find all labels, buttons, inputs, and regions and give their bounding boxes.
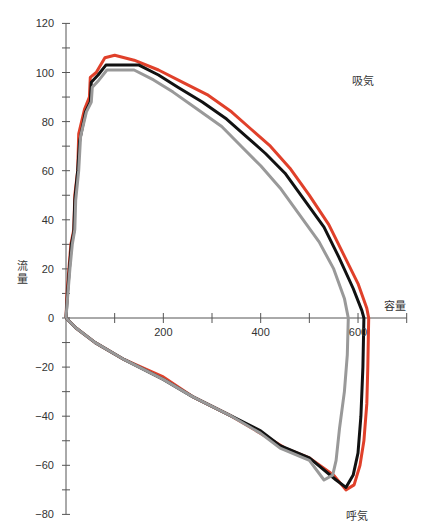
inhale-annotation: 吸気 bbox=[352, 74, 374, 88]
y-tick-label: 20 bbox=[42, 263, 54, 275]
y-tick-label: 120 bbox=[36, 17, 54, 29]
series-black-line bbox=[66, 65, 364, 487]
y-tick-label: 100 bbox=[36, 67, 54, 79]
y-tick-label: 40 bbox=[42, 214, 54, 226]
series-layer bbox=[66, 55, 369, 490]
y-tick-label: 80 bbox=[42, 116, 54, 128]
series-gray-line bbox=[66, 70, 348, 480]
y-tick-label: −20 bbox=[35, 361, 54, 373]
y-axis-title: 流 bbox=[17, 259, 28, 273]
x-axis-title: 容量 bbox=[384, 299, 406, 313]
labels-layer: 120100806040200−20−40−60−80200400600容量流量… bbox=[17, 17, 407, 523]
axes bbox=[62, 23, 407, 514]
flow-volume-chart: 120100806040200−20−40−60−80200400600容量流量… bbox=[0, 0, 421, 532]
x-tick-label: 600 bbox=[349, 326, 367, 338]
y-tick-label: −60 bbox=[35, 459, 54, 471]
exhale-annotation: 呼気 bbox=[346, 509, 368, 523]
y-tick-label: 0 bbox=[48, 312, 54, 324]
series-red-line bbox=[66, 55, 369, 490]
y-tick-label: −80 bbox=[35, 508, 54, 520]
y-axis-title: 量 bbox=[17, 273, 28, 286]
y-tick-label: −40 bbox=[35, 410, 54, 422]
x-tick-label: 400 bbox=[252, 326, 270, 338]
x-tick-label: 200 bbox=[154, 326, 172, 338]
y-tick-label: 60 bbox=[42, 165, 54, 177]
